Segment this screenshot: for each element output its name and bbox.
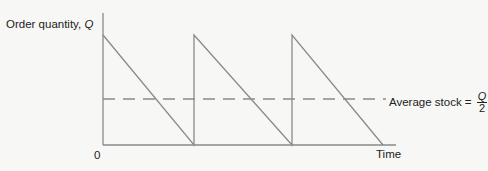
average-stock-text: Average stock = — [389, 96, 475, 108]
x-axis-label: Time — [376, 148, 401, 160]
fraction-q-over-2: Q2 — [477, 91, 488, 114]
fraction-denominator: 2 — [479, 103, 485, 114]
y-axis-symbol: Q — [84, 18, 93, 30]
average-stock-label: Average stock = Q2 — [389, 91, 487, 114]
origin-label: 0 — [94, 149, 100, 161]
inventory-sawtooth-line — [103, 35, 383, 145]
y-axis-label-text: Order quantity, — [6, 18, 84, 30]
y-axis-label: Order quantity, Q — [6, 18, 93, 30]
